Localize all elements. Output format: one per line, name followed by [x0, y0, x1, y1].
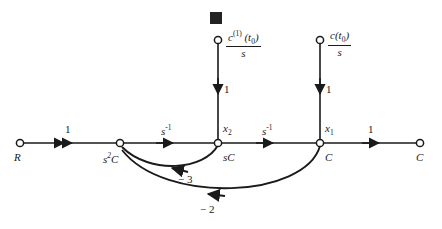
node-label-s2C-tail: C — [111, 153, 118, 165]
source-label-c1-denominator: s — [226, 47, 261, 59]
edge-weight-feedback-outer: − 2 — [200, 204, 214, 215]
node-label-sC: sC — [223, 152, 235, 163]
node-variable-x1: x1 — [325, 123, 334, 137]
source-label-c1-arg-close: ) — [255, 31, 259, 43]
source-label-c1-numerator-superscript: (1) — [233, 29, 242, 38]
edge-weight-src1-to-x2: 1 — [224, 84, 230, 95]
node-R[interactable] — [16, 139, 23, 146]
node-label-s2C: s2C — [103, 152, 118, 165]
node-variable-x2: x2 — [223, 123, 232, 137]
node-label-C-output: C — [416, 152, 423, 163]
edge-feedback-x2-to-s2C-arrow — [172, 168, 188, 172]
edge-weight-s2C-to-x2-exponent: -1 — [165, 123, 171, 132]
node-variable-x2-subscript: 2 — [228, 128, 232, 137]
node-source-c[interactable] — [316, 36, 323, 43]
source-label-c-arg-close: ) — [345, 29, 349, 41]
edge-weight-x2-to-x1-exponent: -1 — [266, 123, 272, 132]
edge-weight-x1-to-Cout: 1 — [368, 124, 374, 135]
node-x2[interactable] — [214, 139, 221, 146]
node-variable-x1-subscript: 1 — [330, 128, 334, 137]
edge-weight-s2C-to-x2: s-1 — [161, 124, 172, 137]
source-label-c-t0-over-s: c(t0) s — [328, 30, 351, 58]
edge-feedback-x1-to-s2C-curve — [122, 146, 320, 188]
source-label-c-arg-open: (t — [335, 29, 342, 41]
edge-weight-R-to-s2C: 1 — [65, 124, 71, 135]
node-x1[interactable] — [316, 139, 323, 146]
source-label-c-numerator: c(t0) — [328, 30, 351, 45]
source-label-c-denominator: s — [328, 46, 351, 58]
source-label-c1-t0-over-s: c(1) (t0) s — [226, 30, 261, 59]
node-C-output[interactable] — [416, 139, 423, 146]
edge-weight-feedback-inner: − 3 — [178, 174, 192, 185]
edge-weight-x2-to-x1: s-1 — [262, 124, 273, 137]
source-label-c1-numerator: c(1) (t0) — [226, 30, 261, 46]
edge-weight-src2-to-x1: 1 — [326, 84, 332, 95]
node-label-C-middle: C — [325, 152, 332, 163]
graph-canvas — [0, 0, 442, 229]
node-s2C[interactable] — [116, 139, 123, 146]
signal-flow-graph-figure: R s2C sC C C x2 x1 1 s-1 s-1 1 1 1 − 3 −… — [0, 0, 442, 229]
node-label-R: R — [14, 152, 21, 163]
edge-feedback-x1-to-s2C-arrow — [208, 194, 225, 196]
node-source-c1[interactable] — [214, 36, 221, 43]
